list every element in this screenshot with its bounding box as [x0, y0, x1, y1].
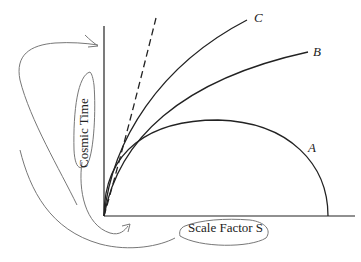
- label-curve-b: B: [313, 44, 321, 60]
- diagram-canvas: [0, 0, 361, 262]
- label-curve-a: A: [308, 140, 316, 156]
- x-axis-label: Scale Factor S: [188, 220, 263, 236]
- annotation-loop-bottom: [20, 150, 175, 248]
- label-curve-c: C: [254, 10, 263, 26]
- y-axis-label: Cosmic Time: [76, 98, 92, 168]
- curve-a: [104, 120, 328, 216]
- curve-c: [104, 20, 247, 216]
